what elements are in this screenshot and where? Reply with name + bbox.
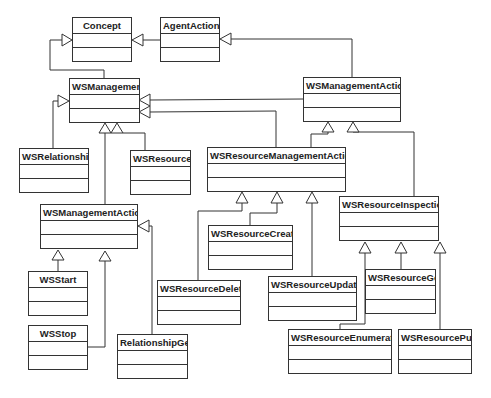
attributes-compartment <box>41 221 137 235</box>
attributes-compartment <box>304 94 400 108</box>
generalization-arrow-icon <box>347 122 359 132</box>
operations-compartment <box>269 307 356 320</box>
edge-wsresource-wsmanagement <box>123 133 145 150</box>
generalization-arrow-icon <box>99 123 111 133</box>
generalization-arrow-icon <box>322 122 334 132</box>
class-wsrelationship[interactable]: WSRelationship <box>19 148 89 193</box>
operations-compartment <box>366 300 435 313</box>
class-name: WSResourceEnumerate <box>289 330 391 346</box>
generalization-arrow-icon <box>220 33 231 45</box>
class-name: Concept <box>73 18 131 34</box>
attributes-compartment <box>29 342 87 356</box>
generalization-arrow-icon <box>52 250 64 260</box>
generalization-arrow-icon <box>58 95 69 107</box>
operations-compartment <box>209 256 292 269</box>
operations-compartment <box>118 365 187 378</box>
attributes-compartment <box>399 346 471 360</box>
generalization-arrow-icon <box>111 123 123 133</box>
attributes-compartment <box>209 242 292 256</box>
operations-compartment <box>304 108 400 121</box>
operations-compartment <box>161 48 219 61</box>
generalization-arrow-icon <box>138 220 149 232</box>
edge-relationshipget-wsma <box>149 226 152 334</box>
edge-wsri-wsma <box>353 132 414 196</box>
generalization-arrow-icon <box>271 192 283 203</box>
class-wsresourcemanagementaction[interactable]: WSResourceManagementAction <box>207 147 346 192</box>
attributes-compartment <box>366 286 435 300</box>
generalization-arrow-icon <box>306 192 318 203</box>
class-name: WSResource <box>131 151 190 167</box>
operations-compartment <box>29 302 87 315</box>
attributes-compartment <box>118 351 187 365</box>
attributes-compartment <box>73 34 131 48</box>
class-name: WSStart <box>29 272 87 288</box>
edge-wsmanagementaction-wsmanagement <box>150 99 303 100</box>
generalization-arrow-icon <box>395 242 407 253</box>
operations-compartment <box>29 356 87 369</box>
edge-wsrma-wsmanagement <box>150 111 276 147</box>
class-wsresourceget[interactable]: WSResourceGet <box>365 269 436 314</box>
class-name: WSManagementAction <box>41 205 137 221</box>
generalization-arrow-icon <box>62 34 72 46</box>
attributes-compartment <box>29 288 87 302</box>
class-name: WSResourceGet <box>366 270 435 286</box>
class-name: AgentAction <box>161 18 219 34</box>
class-wsresourceupdate[interactable]: WSResourceUpdate <box>268 276 357 321</box>
class-wsresourcedelete[interactable]: WSResourceDelete <box>157 280 241 325</box>
operations-compartment <box>41 235 137 248</box>
generalization-arrow-icon <box>139 94 150 106</box>
generalization-arrow-icon <box>359 242 371 253</box>
class-name: WSResourceInspection <box>340 197 438 213</box>
generalization-arrow-icon <box>132 34 143 46</box>
edge-wsrma-wsma <box>311 132 328 147</box>
edge-wsmanagementaction-agentaction <box>231 39 352 77</box>
class-wsresourcepull[interactable]: WSResourcePull <box>398 329 472 374</box>
class-name: WSManagement <box>70 79 139 95</box>
class-wsresourceinspection[interactable]: WSResourceInspection <box>339 196 439 241</box>
operations-compartment <box>70 109 139 122</box>
attributes-compartment <box>289 346 391 360</box>
class-diagram-canvas: Concept AgentAction WSManagement WSManag… <box>0 0 491 398</box>
class-wsmanagementaction-top[interactable]: WSManagementAction <box>303 77 401 122</box>
attributes-compartment <box>269 293 356 307</box>
operations-compartment <box>399 360 471 373</box>
attributes-compartment <box>161 34 219 48</box>
operations-compartment <box>131 181 190 194</box>
class-wsstop[interactable]: WSStop <box>28 325 88 370</box>
class-wsresourcecreate[interactable]: WSResourceCreate <box>208 225 293 270</box>
class-name: WSResourceDelete <box>158 281 240 297</box>
edge-wsstop-wsma <box>88 261 105 347</box>
class-name: WSManagementAction <box>304 78 400 94</box>
operations-compartment <box>158 311 240 324</box>
class-wsresourceenumerate[interactable]: WSResourceEnumerate <box>288 329 392 374</box>
class-wsstart[interactable]: WSStart <box>28 271 88 316</box>
class-name: WSRelationship <box>20 149 88 165</box>
class-concept[interactable]: Concept <box>72 17 132 62</box>
class-name: WSStop <box>29 326 87 342</box>
edge-wsrelationship-wsmanagement <box>53 101 58 148</box>
attributes-compartment <box>131 167 190 181</box>
operations-compartment <box>208 178 345 191</box>
operations-compartment <box>289 360 391 373</box>
attributes-compartment <box>20 165 88 179</box>
class-wsresource[interactable]: WSResource <box>130 150 191 195</box>
generalization-arrow-icon <box>434 242 446 253</box>
edge-wsrcreate-wsrma <box>250 203 277 225</box>
class-wsmanagement[interactable]: WSManagement <box>69 78 140 123</box>
generalization-arrow-icon <box>236 192 248 203</box>
class-relationshipget[interactable]: RelationshipGet <box>117 334 188 379</box>
operations-compartment <box>73 48 131 61</box>
class-name: WSResourceCreate <box>209 226 292 242</box>
generalization-arrow-icon <box>99 251 111 261</box>
class-name: RelationshipGet <box>118 335 187 351</box>
operations-compartment <box>340 227 438 240</box>
attributes-compartment <box>340 213 438 227</box>
class-name: WSResourcePull <box>399 330 471 346</box>
attributes-compartment <box>158 297 240 311</box>
class-agentaction[interactable]: AgentAction <box>160 17 220 62</box>
generalization-arrow-icon <box>139 106 150 118</box>
attributes-compartment <box>208 164 345 178</box>
class-wsmanagementaction-lower[interactable]: WSManagementAction <box>40 204 138 249</box>
class-name: WSResourceManagementAction <box>208 148 345 164</box>
attributes-compartment <box>70 95 139 109</box>
